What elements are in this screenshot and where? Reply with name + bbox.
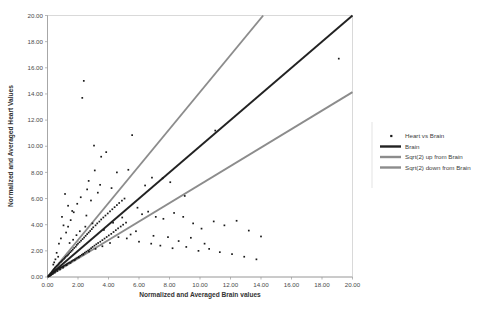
- scatter-point: [113, 231, 115, 233]
- y-axis-title: Normalized and Averaged Heart Values: [7, 85, 15, 207]
- y-tick-label: 2.00: [31, 247, 44, 254]
- scatter-point: [198, 250, 200, 252]
- scatter-point: [155, 216, 157, 218]
- scatter-point: [109, 211, 111, 213]
- scatter-point: [120, 226, 122, 228]
- scatter-point: [162, 177, 164, 179]
- scatter-point: [72, 239, 74, 241]
- scatter-point: [67, 205, 69, 207]
- scatter-point: [213, 221, 215, 223]
- scatter-point: [60, 238, 62, 240]
- scatter-point: [90, 200, 92, 202]
- scatter-point: [173, 212, 175, 214]
- scatter-point: [78, 257, 80, 259]
- scatter-point: [104, 238, 106, 240]
- scatter-point: [65, 232, 67, 234]
- scatter-point: [96, 223, 98, 225]
- scatter-point: [137, 207, 139, 209]
- scatter-point: [89, 230, 91, 232]
- y-tick-label: 6.00: [31, 195, 44, 202]
- scatter-point: [86, 189, 88, 191]
- y-tick-label: 12.00: [28, 116, 44, 123]
- scatter-point: [178, 240, 180, 242]
- scatter-point: [89, 249, 91, 251]
- scatter-point: [118, 202, 120, 204]
- scatter-point: [97, 242, 99, 244]
- scatter-point: [169, 181, 171, 183]
- scatter-point: [72, 249, 74, 251]
- scatter-point: [147, 211, 149, 213]
- scatter-point: [102, 217, 104, 219]
- scatter-point: [144, 185, 146, 187]
- scatter-point: [77, 243, 79, 245]
- scatter-point: [97, 192, 99, 194]
- legend-item-label: Brain: [405, 143, 420, 150]
- scatter-point: [88, 232, 90, 234]
- scatter-point: [76, 234, 78, 236]
- scatter-point: [86, 233, 88, 235]
- scatter-point: [79, 255, 81, 257]
- scatter-point: [112, 222, 114, 224]
- scatter-point: [102, 245, 104, 247]
- chart-canvas: 0.002.004.006.008.0010.0012.0014.0016.00…: [0, 0, 500, 312]
- x-tick-label: 4.00: [102, 281, 115, 288]
- scatter-point: [121, 200, 123, 202]
- scatter-point: [62, 267, 64, 269]
- scatter-point: [102, 239, 104, 241]
- scatter-point: [172, 247, 174, 249]
- scatter-point: [93, 145, 95, 147]
- scatter-point: [81, 97, 83, 99]
- scatter-point: [94, 245, 96, 247]
- scatter-point: [130, 234, 132, 236]
- y-tick-label: 10.00: [28, 142, 44, 149]
- x-tick-label: 2.00: [72, 281, 85, 288]
- scatter-point: [53, 262, 55, 264]
- scatter-point: [91, 228, 93, 230]
- scatter-point: [214, 130, 216, 132]
- scatter-point: [116, 204, 118, 206]
- scatter-point: [243, 256, 245, 258]
- scatter-point: [106, 236, 108, 238]
- scatter-point: [54, 272, 56, 274]
- scatter-point: [58, 243, 60, 245]
- x-axis-title: Normalized and Averaged Brain values: [139, 291, 261, 299]
- scatter-point: [192, 223, 194, 225]
- scatter-point: [105, 215, 107, 217]
- scatter-point: [83, 80, 85, 82]
- scatter-point: [125, 222, 127, 224]
- scatter-point: [64, 193, 66, 195]
- y-tick-label: 8.00: [31, 169, 44, 176]
- scatter-point: [124, 198, 126, 200]
- scatter-point: [85, 235, 87, 237]
- scatter-point: [236, 220, 238, 222]
- scatter-point: [79, 241, 81, 243]
- scatter-point: [52, 273, 54, 275]
- scatter-point: [48, 275, 50, 277]
- scatter-chart: 0.002.004.006.008.0010.0012.0014.0016.00…: [0, 0, 500, 312]
- scatter-point: [184, 195, 186, 197]
- scatter-point: [99, 221, 101, 223]
- x-tick-label: 16.00: [284, 281, 300, 288]
- scatter-point: [109, 242, 111, 244]
- scatter-point: [81, 254, 83, 256]
- scatter-point: [127, 169, 129, 171]
- scatter-point: [99, 184, 101, 186]
- scatter-point: [90, 247, 92, 249]
- scatter-point: [110, 233, 112, 235]
- scatter-point: [70, 219, 72, 221]
- scatter-point: [114, 206, 116, 208]
- scatter-point: [103, 229, 105, 231]
- legend-item-label: Sqrt(2) up from Brain: [405, 153, 463, 160]
- scatter-point: [111, 187, 113, 189]
- scatter-point: [70, 262, 72, 264]
- scatter-point: [50, 274, 52, 276]
- scatter-point: [151, 177, 153, 179]
- scatter-point: [55, 258, 57, 260]
- x-tick-label: 14.00: [253, 281, 269, 288]
- scatter-point: [95, 243, 97, 245]
- scatter-point: [59, 269, 61, 271]
- scatter-point: [167, 236, 169, 238]
- y-tick-label: 14.00: [28, 90, 44, 97]
- scatter-point: [115, 229, 117, 231]
- scatter-point: [224, 225, 226, 227]
